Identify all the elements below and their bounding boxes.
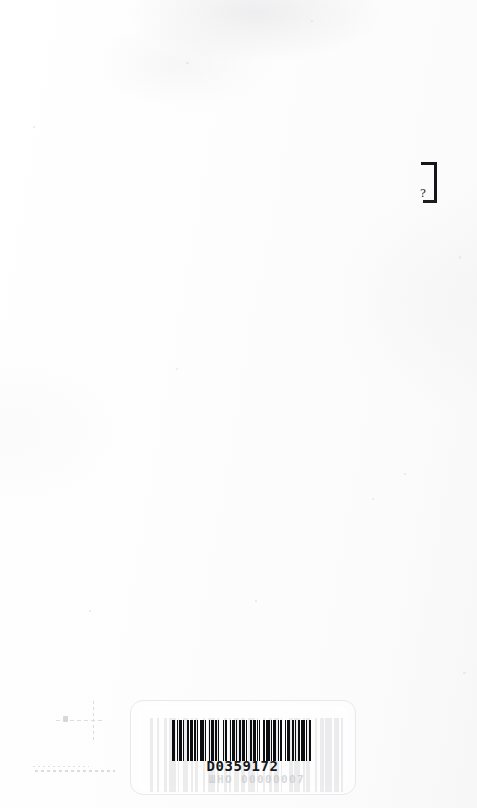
edge-secondary-mark: ? xyxy=(420,189,425,198)
bracket-stem xyxy=(434,162,437,203)
scanned-page: ? D0359172 ШНО 00000007 xyxy=(0,0,477,808)
barcode-number: D0359172 xyxy=(172,758,313,774)
barcode-bars xyxy=(172,720,313,761)
bracket-bottom-arm xyxy=(423,200,436,203)
barcode-gap xyxy=(311,720,312,761)
faint-smudge-line xyxy=(33,765,117,775)
faint-cross-vertical xyxy=(93,701,94,741)
barcode-showthrough-text: ШНО 00000007 xyxy=(186,774,328,786)
faint-smudge-upper xyxy=(33,766,89,767)
faint-ink-blot xyxy=(63,716,68,722)
faint-smudge-lower xyxy=(35,770,115,772)
faint-cross-stamp xyxy=(56,701,104,741)
paper-texture xyxy=(0,0,477,808)
scan-noise xyxy=(0,0,477,808)
